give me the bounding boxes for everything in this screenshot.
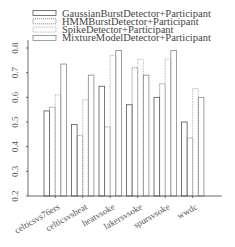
x-tick-labels: celticsvs76erscelticsvsheatheatvsokelake… [13,201,199,235]
legend-swatch [33,35,56,40]
bar [77,136,83,196]
bar [83,100,89,196]
bar-chart: 0.20.30.40.50.60.70.8 celticsvs76erscelt… [0,0,235,247]
y-ticks: 0.20.30.40.50.60.70.8 [10,42,28,202]
bar [99,86,105,196]
bar [198,97,204,196]
bar [193,89,199,196]
bar [187,138,193,196]
bar [116,50,122,196]
bar [55,95,61,196]
legend-swatch [33,27,56,32]
bar [110,55,116,196]
legend-label: MixtureModelDetector+Participant [62,32,211,43]
bar [132,68,138,196]
bar [143,75,149,196]
bar [44,111,50,196]
bar [138,59,144,196]
bar [154,97,160,196]
y-tick-label: 0.3 [10,165,20,177]
y-tick-label: 0.7 [10,67,20,79]
y-tick-label: 0.5 [10,116,20,128]
bar [50,107,56,196]
legend-swatch [33,11,56,16]
bar [88,75,94,196]
y-tick-label: 0.8 [10,42,20,54]
legend: GaussianBurstDetector+ParticipantHMMBurs… [33,8,211,44]
bar [72,124,78,196]
bars-group [44,50,204,198]
legend-swatch [33,19,56,24]
bar [165,59,171,196]
bar [105,127,111,196]
y-tick-label: 0.2 [10,190,20,201]
bar [160,84,166,196]
bar [182,122,188,196]
y-tick-label: 0.6 [10,91,20,103]
bar [61,64,67,196]
x-tick-label: wwdc [175,202,199,221]
bar [127,105,133,196]
bar [171,50,177,196]
y-tick-label: 0.4 [10,141,20,153]
